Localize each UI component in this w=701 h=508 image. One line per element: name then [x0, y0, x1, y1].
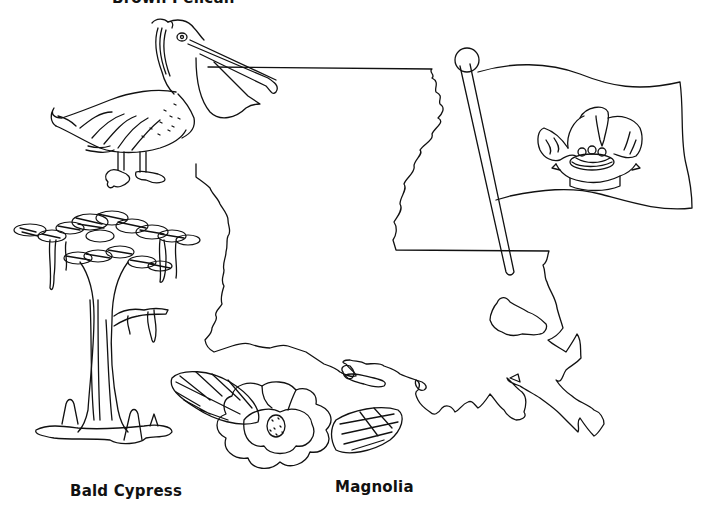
- bald-cypress-drawing: [14, 211, 200, 444]
- coloring-page: Brown Pelican: [0, 0, 701, 508]
- pelican-drawing: [51, 19, 277, 188]
- state-flag-drawing: [455, 48, 692, 275]
- bald-cypress-label: Bald Cypress: [70, 482, 182, 500]
- artwork-canvas: [0, 0, 701, 508]
- magnolia-label: Magnolia: [335, 478, 414, 496]
- louisiana-map-outline: [196, 67, 604, 436]
- magnolia-drawing: [171, 372, 402, 469]
